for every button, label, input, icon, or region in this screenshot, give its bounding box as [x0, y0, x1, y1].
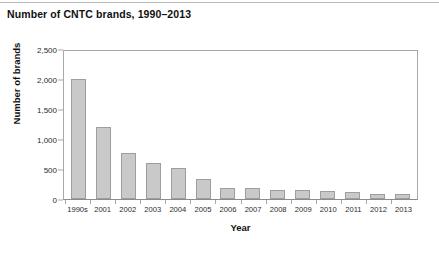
bar[interactable]: [295, 190, 310, 199]
bar[interactable]: [370, 194, 385, 199]
bar[interactable]: [146, 163, 161, 199]
y-axis-tick-label: 1,000: [37, 136, 57, 145]
bar[interactable]: [395, 194, 410, 199]
y-axis-tick-label: 2,500: [37, 46, 57, 55]
bar-slot: [390, 51, 415, 199]
bar[interactable]: [270, 190, 285, 199]
bar-series: [64, 51, 417, 199]
x-axis-tick-label: 2001: [90, 200, 115, 220]
x-axis-tick-label: 1990s: [65, 200, 90, 220]
y-axis-tick-label: 2,000: [37, 76, 57, 85]
bar-slot: [166, 51, 191, 199]
x-axis-tick-label: 2010: [316, 200, 341, 220]
bar-slot: [365, 51, 390, 199]
bar-slot: [216, 51, 241, 199]
bar[interactable]: [121, 153, 136, 199]
chart-figure: Number of CNTC brands, 1990–2013 Number …: [0, 0, 439, 254]
bar-slot: [240, 51, 265, 199]
x-axis-title: Year: [63, 222, 418, 233]
x-axis-tick-label: 2005: [190, 200, 215, 220]
bar-slot: [91, 51, 116, 199]
bar[interactable]: [245, 188, 260, 199]
x-axis-tick-label: 2012: [366, 200, 391, 220]
bar[interactable]: [345, 192, 360, 199]
x-axis-tick-label: 2013: [391, 200, 416, 220]
bar[interactable]: [71, 79, 86, 199]
bar-slot: [66, 51, 91, 199]
bar[interactable]: [196, 179, 211, 199]
x-axis-tick-label: 2006: [215, 200, 240, 220]
x-axis-tick-label: 2004: [165, 200, 190, 220]
x-axis-tick-label: 2007: [241, 200, 266, 220]
bar-slot: [141, 51, 166, 199]
bar[interactable]: [171, 168, 186, 199]
bar-slot: [315, 51, 340, 199]
bar[interactable]: [220, 188, 235, 199]
x-axis-tick-label: 2011: [341, 200, 366, 220]
x-axis-tick-label: 2002: [115, 200, 140, 220]
x-axis-tick-label: 2008: [266, 200, 291, 220]
y-axis-tick-label: 1,500: [37, 106, 57, 115]
bar[interactable]: [320, 191, 335, 199]
bar-slot: [116, 51, 141, 199]
plot-area: [63, 50, 418, 200]
bar-slot: [265, 51, 290, 199]
x-axis-tick-label: 2009: [291, 200, 316, 220]
x-axis-tick-label: 2003: [140, 200, 165, 220]
chart-title: Number of CNTC brands, 1990–2013: [7, 8, 191, 20]
bar[interactable]: [96, 127, 111, 199]
bar-slot: [191, 51, 216, 199]
y-axis-tick-label: 500: [44, 166, 57, 175]
y-axis-ticks: 05001,0001,5002,0002,500: [0, 50, 63, 200]
header-divider: [0, 2, 439, 3]
bar-slot: [290, 51, 315, 199]
y-axis-tick-label: 0: [53, 196, 57, 205]
x-axis-tick-labels: 1990s20012002200320042005200620072008200…: [63, 200, 418, 220]
bar-slot: [340, 51, 365, 199]
